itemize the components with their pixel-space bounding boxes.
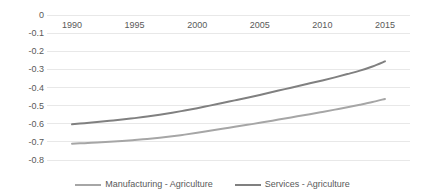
y-tick-label: -0.2: [6, 46, 44, 56]
y-tick-label: -0.1: [6, 28, 44, 38]
series-line-2: [72, 61, 385, 124]
legend-entry[interactable]: Manufacturing - Agriculture: [75, 179, 213, 190]
y-tick-label: -0.3: [6, 64, 44, 74]
legend-entry[interactable]: Services - Agriculture: [235, 179, 350, 190]
line-chart: 0-0.1-0.2-0.3-0.4-0.5-0.6-0.7-0.8 199019…: [0, 0, 425, 193]
gridlines: [47, 15, 410, 160]
legend-line-swatch: [75, 184, 101, 186]
y-tick-label: -0.7: [6, 137, 44, 147]
y-tick-label: 0: [6, 10, 44, 20]
legend-label: Manufacturing - Agriculture: [105, 179, 213, 190]
series-lines: [72, 61, 385, 143]
y-axis-tick-labels: 0-0.1-0.2-0.3-0.4-0.5-0.6-0.7-0.8: [0, 0, 44, 193]
y-tick-label: -0.8: [6, 155, 44, 165]
y-tick-label: -0.5: [6, 101, 44, 111]
chart-legend: Manufacturing - AgricultureServices - Ag…: [0, 179, 425, 190]
legend-label: Services - Agriculture: [265, 179, 350, 190]
chart-plot-svg: [0, 0, 425, 193]
legend-line-swatch: [235, 184, 261, 186]
y-tick-label: -0.4: [6, 83, 44, 93]
y-tick-label: -0.6: [6, 119, 44, 129]
